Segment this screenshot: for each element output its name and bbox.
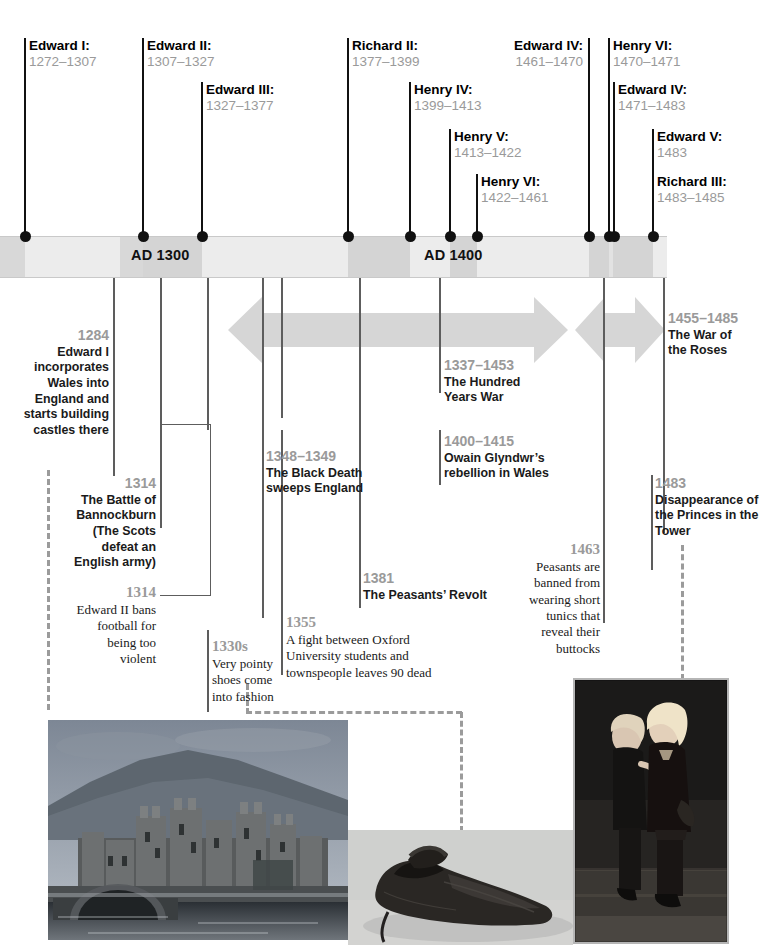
monarch-years: 1272–1307 bbox=[29, 54, 97, 70]
dash-connector-shoe-h bbox=[246, 711, 462, 714]
event-text: A fight between Oxford University studen… bbox=[286, 632, 438, 681]
event-year: 1381 bbox=[363, 570, 503, 588]
monarch-dot-henry-vi-1422 bbox=[472, 231, 483, 242]
bar-segment bbox=[348, 237, 410, 277]
monarch-years: 1422–1461 bbox=[481, 190, 549, 206]
monarch-tick-edward-i bbox=[24, 38, 26, 238]
monarch-label-edward-iv-1461: Edward IV: 1461–1470 bbox=[451, 38, 583, 71]
event-1314-bannockburn: 1314 The Battle of Bannockburn (The Scot… bbox=[62, 475, 156, 571]
event-1483-princes: 1483 Disappearance of the Princes in the… bbox=[655, 475, 760, 540]
monarch-name: Richard II: bbox=[352, 38, 420, 54]
monarch-tick-henry-v bbox=[449, 129, 451, 238]
bar-segment bbox=[589, 237, 609, 277]
monarch-name: Richard III: bbox=[657, 174, 727, 190]
monarch-dot-henry-v bbox=[445, 231, 456, 242]
monarch-dot-edward-v bbox=[648, 231, 659, 242]
event-year: 1355 bbox=[286, 613, 438, 632]
event-year: 1330s bbox=[212, 637, 282, 656]
event-text: The Peasants’ Revolt bbox=[363, 588, 503, 604]
monarch-years: 1461–1470 bbox=[451, 54, 583, 70]
monarch-tick-edward-iv-1471 bbox=[613, 82, 615, 238]
event-1381-peasants-revolt: 1381 The Peasants’ Revolt bbox=[363, 570, 503, 603]
monarch-name: Edward I: bbox=[29, 38, 97, 54]
monarch-years: 1413–1422 bbox=[454, 145, 522, 161]
monarch-name: Edward IV: bbox=[451, 38, 583, 54]
event-1337-hundred-years-war: 1337–1453 The Hundred Years War bbox=[444, 357, 554, 406]
conwy-castle-photo bbox=[48, 720, 348, 940]
monarch-years: 1470–1471 bbox=[613, 54, 681, 70]
princes-in-the-tower-painting bbox=[575, 680, 727, 942]
monarch-label-henry-v: Henry V: 1413–1422 bbox=[454, 129, 522, 162]
monarch-label-henry-iv: Henry IV: 1399–1413 bbox=[414, 82, 482, 115]
monarch-years: 1483 bbox=[657, 145, 722, 161]
event-year: 1400–1415 bbox=[444, 433, 564, 451]
guide-line-1381 bbox=[359, 278, 361, 608]
event-1330s: 1330s Very pointy shoes come into fashio… bbox=[212, 637, 282, 705]
event-text: Disappearance of the Princes in the Towe… bbox=[655, 493, 760, 540]
monarch-label-edward-v: Edward V: 1483 bbox=[657, 129, 722, 162]
monarch-name: Edward V: bbox=[657, 129, 722, 145]
photo-conwy-castle bbox=[48, 720, 348, 940]
bar-segment bbox=[25, 237, 120, 277]
hundred-years-war-arrow bbox=[228, 297, 568, 363]
guide-line-1330s bbox=[207, 630, 209, 712]
event-year: 1463 bbox=[516, 540, 600, 559]
event-year: 1314 bbox=[72, 583, 156, 602]
dash-connector-princes bbox=[681, 545, 684, 680]
monarch-dot-edward-i bbox=[20, 231, 31, 242]
monarch-tick-richard-ii bbox=[347, 38, 349, 238]
monarch-name: Edward IV: bbox=[618, 82, 687, 98]
event-1463-tunics: 1463 Peasants are banned from wearing sh… bbox=[516, 540, 600, 657]
event-year: 1337–1453 bbox=[444, 357, 554, 375]
medieval-pointy-shoe-photo bbox=[348, 830, 573, 945]
event-1455-war-of-roses: 1455–1485 The War of the Roses bbox=[668, 310, 744, 359]
monarch-name: Henry V: bbox=[454, 129, 522, 145]
dash-connector-shoe-right bbox=[460, 712, 463, 832]
event-text: Edward II bans football for being too vi… bbox=[72, 602, 156, 668]
monarch-years: 1327–1377 bbox=[206, 98, 274, 114]
monarch-tick-edward-ii bbox=[142, 38, 144, 238]
monarch-tick-edward-iv-1461 bbox=[588, 38, 590, 238]
event-year: 1314 bbox=[62, 475, 156, 493]
monarch-name: Edward II: bbox=[147, 38, 215, 54]
event-1348-black-death: 1348–1349 The Black Death sweeps England bbox=[266, 448, 366, 497]
bar-segment bbox=[202, 237, 348, 277]
monarch-tick-henry-iv bbox=[409, 82, 411, 238]
monarch-label-edward-iii: Edward III: 1327–1377 bbox=[206, 82, 274, 115]
war-of-the-roses-arrow bbox=[575, 297, 665, 363]
monarch-label-henry-vi-1470: Henry VI: 1470–1471 bbox=[613, 38, 681, 71]
guide-line-1463 bbox=[603, 278, 605, 623]
event-1284: 1284 Edward I incorporates Wales into En… bbox=[23, 327, 109, 438]
monarch-label-edward-i: Edward I: 1272–1307 bbox=[29, 38, 97, 71]
event-text: Owain Glyndwr’s rebellion in Wales bbox=[444, 451, 564, 482]
top-margin bbox=[0, 0, 765, 14]
monarch-tick-henry-vi-1470 bbox=[608, 38, 610, 238]
bar-segment bbox=[0, 237, 25, 277]
event-text: The Hundred Years War bbox=[444, 375, 554, 406]
monarch-dot-edward-iii bbox=[197, 231, 208, 242]
photo-pointy-shoe bbox=[348, 830, 573, 945]
event-year: 1348–1349 bbox=[266, 448, 366, 466]
monarch-label-henry-vi-1422: Henry VI: 1422–1461 bbox=[481, 174, 549, 207]
monarch-tick-edward-v bbox=[652, 129, 654, 238]
monarch-dot-henry-iv bbox=[405, 231, 416, 242]
monarch-years: 1307–1327 bbox=[147, 54, 215, 70]
guide-line-1483-princes bbox=[651, 475, 653, 570]
event-text: Edward I incorporates Wales into England… bbox=[23, 345, 109, 439]
dash-connector-castles bbox=[47, 470, 50, 710]
event-text: Peasants are banned from wearing short t… bbox=[516, 559, 600, 657]
monarch-tick-edward-iii bbox=[201, 82, 203, 238]
timeline-infographic: AD 1300 AD 1400 Edward I: 1272–1307 Edwa… bbox=[0, 0, 765, 951]
bar-segment bbox=[613, 237, 653, 277]
monarch-years: 1399–1413 bbox=[414, 98, 482, 114]
guide-line-1348b bbox=[281, 278, 283, 418]
guide-line-1314-football bbox=[207, 278, 209, 430]
monarch-years: 1483–1485 bbox=[657, 190, 727, 206]
monarch-name: Edward III: bbox=[206, 82, 274, 98]
monarch-label-richard-ii: Richard II: 1377–1399 bbox=[352, 38, 420, 71]
monarch-years: 1471–1483 bbox=[618, 98, 687, 114]
event-text: The War of the Roses bbox=[668, 328, 744, 359]
monarch-name: Henry VI: bbox=[613, 38, 681, 54]
monarch-label-edward-ii: Edward II: 1307–1327 bbox=[147, 38, 215, 71]
event-text: The Black Death sweeps England bbox=[266, 466, 366, 497]
